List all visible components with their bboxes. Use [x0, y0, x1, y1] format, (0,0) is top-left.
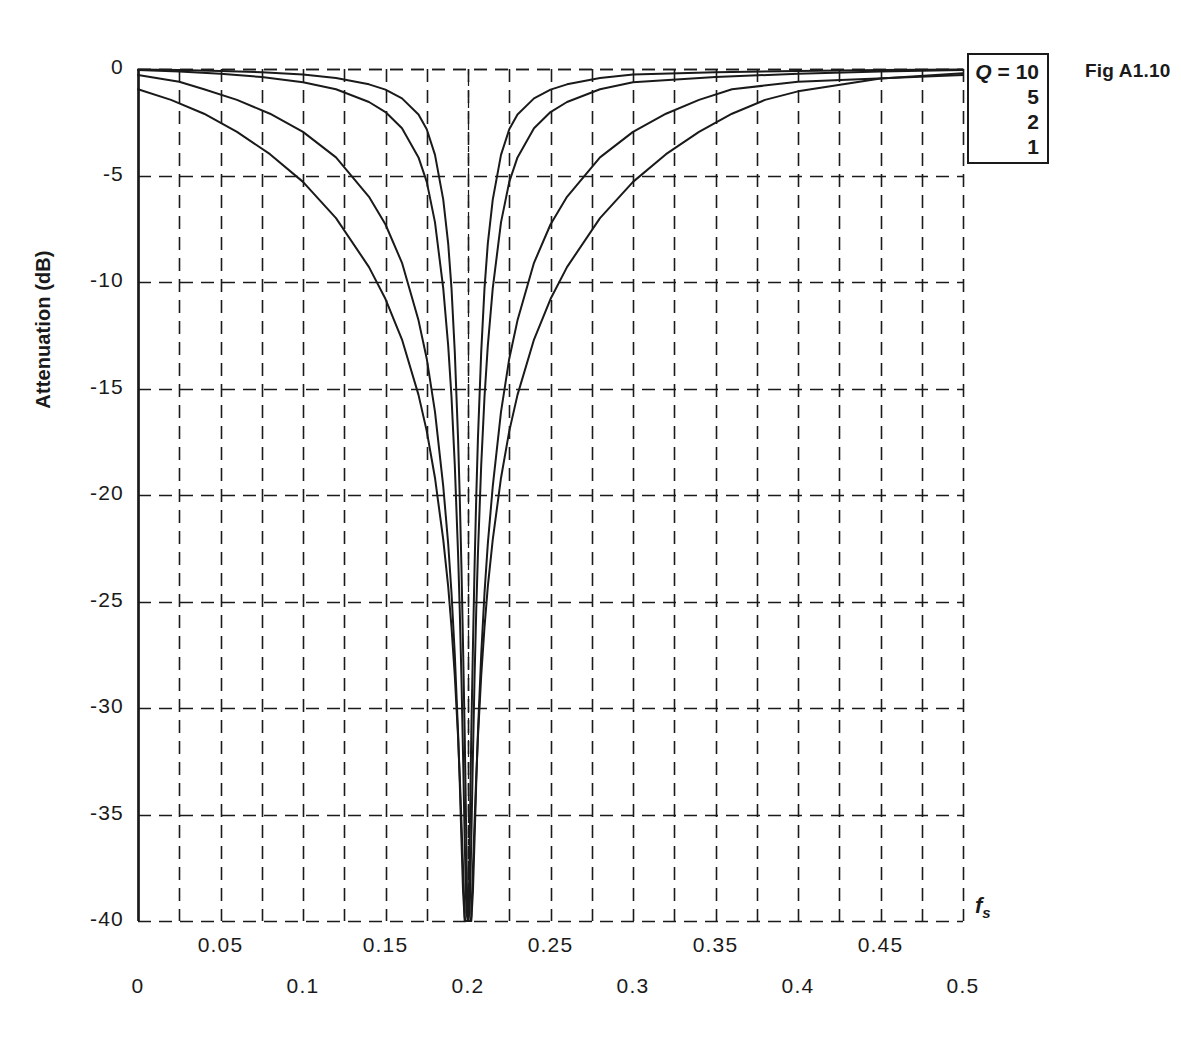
x-tick-label-lower: 0.4	[782, 974, 815, 998]
legend-row: 2	[969, 109, 1039, 134]
legend-row: 1	[969, 134, 1039, 159]
x-tick-label-upper: 0.35	[693, 933, 739, 957]
legend-equals: =	[992, 60, 1016, 83]
x-axis-title: fs	[975, 893, 991, 921]
legend-q-symbol: Q	[975, 60, 991, 83]
legend-row: Q = 10	[969, 59, 1039, 84]
y-axis-title: Attenuation (dB)	[32, 215, 55, 445]
legend-value-2: 2	[1027, 110, 1039, 133]
y-tick-label: -10	[66, 268, 124, 292]
legend-value-1: 5	[1027, 85, 1039, 108]
x-tick-label-lower: 0.1	[287, 974, 320, 998]
legend: Q = 10 5 2 1	[967, 53, 1049, 164]
figure-a1-10: Attenuation (dB) 0-5-10-15-20-25-30-35-4…	[0, 0, 1181, 1041]
y-tick-label: -25	[66, 588, 124, 612]
x-tick-label-upper: 0.25	[528, 933, 574, 957]
legend-value-3: 1	[1027, 135, 1039, 158]
y-tick-label: -35	[66, 801, 124, 825]
x-tick-label-upper: 0.45	[858, 933, 904, 957]
legend-row: 5	[969, 84, 1039, 109]
y-tick-label: 0	[66, 55, 124, 79]
y-tick-label: -15	[66, 375, 124, 399]
x-tick-label-lower: 0.2	[452, 974, 485, 998]
x-tick-label-upper: 0.15	[363, 933, 409, 957]
x-tick-label-lower: 0.3	[617, 974, 650, 998]
legend-value-0: 10	[1016, 60, 1039, 83]
x-tick-label-lower: 0	[132, 974, 145, 998]
y-tick-label: -40	[66, 907, 124, 931]
y-tick-label: -20	[66, 481, 124, 505]
y-tick-label: -5	[66, 162, 124, 186]
figure-number-label: Fig A1.10	[1085, 60, 1171, 82]
x-tick-label-upper: 0.05	[198, 933, 244, 957]
x-axis-title-subscript: s	[982, 904, 990, 921]
y-tick-label: -30	[66, 694, 124, 718]
grid-lines	[138, 69, 964, 922]
x-tick-label-lower: 0.5	[947, 974, 980, 998]
